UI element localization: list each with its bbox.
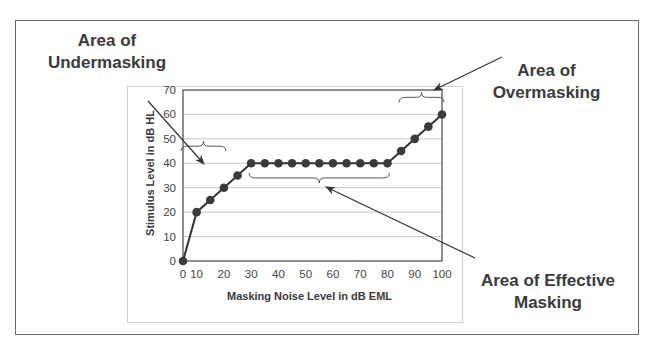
annotation-overmasking: Area of Overmasking — [484, 60, 609, 104]
annotation-effective-masking: Area of Effective Masking — [468, 270, 628, 314]
arrow-undermasking — [148, 101, 204, 164]
data-point — [288, 159, 297, 168]
data-point — [301, 159, 310, 168]
y-tick-label: 40 — [163, 157, 176, 169]
plot-area — [183, 90, 442, 261]
data-point — [192, 208, 201, 217]
data-point — [410, 135, 419, 144]
y-tick-label: 10 — [163, 231, 176, 243]
data-point — [397, 147, 406, 156]
y-tick-label: 30 — [163, 182, 176, 194]
annotation-arrows — [148, 57, 502, 258]
annotation-brackets — [181, 92, 444, 183]
data-point — [342, 159, 351, 168]
bracket-overmasking — [399, 92, 444, 102]
x-axis-title: Masking Noise Level in dB EML — [227, 290, 392, 302]
gridlines — [183, 114, 442, 236]
x-tick-label: 20 — [217, 268, 230, 280]
y-tick-label: 0 — [170, 255, 176, 267]
x-tick-label: 40 — [272, 268, 285, 280]
data-point — [233, 171, 242, 180]
y-tick-label: 20 — [163, 206, 176, 218]
plot-area-border — [183, 90, 442, 261]
y-axis-ticks: 010203040506070 — [163, 84, 176, 267]
x-tick-label: 30 — [245, 268, 258, 280]
y-axis-title: Stimulus Level in dB HL — [144, 110, 156, 236]
data-point — [370, 159, 379, 168]
x-tick-label: 80 — [381, 268, 394, 280]
annotation-undermasking: Area of Undermasking — [42, 30, 172, 74]
x-tick-label: 90 — [408, 268, 421, 280]
data-point — [206, 196, 215, 205]
data-point — [247, 159, 256, 168]
x-tick-label: 0 — [180, 268, 186, 280]
x-tick-label: 100 — [432, 268, 451, 280]
x-tick-label: 50 — [299, 268, 312, 280]
data-point — [438, 110, 447, 119]
x-tick-label: 60 — [327, 268, 340, 280]
data-point — [329, 159, 338, 168]
y-tick-label: 60 — [163, 108, 176, 120]
x-tick-label: 70 — [354, 268, 367, 280]
data-point — [424, 122, 433, 131]
arrow-effective-masking — [326, 187, 475, 258]
y-tick-label: 50 — [163, 133, 176, 145]
x-axis-ticks: 0102030405060708090100 — [180, 268, 452, 280]
bracket-effective-masking — [249, 173, 389, 183]
data-point — [315, 159, 324, 168]
y-tick-label: 70 — [163, 84, 176, 96]
data-point — [179, 257, 188, 266]
data-point — [383, 159, 392, 168]
data-point — [260, 159, 269, 168]
data-point — [220, 183, 229, 192]
data-point — [356, 159, 365, 168]
data-point — [274, 159, 283, 168]
x-tick-label: 10 — [190, 268, 203, 280]
